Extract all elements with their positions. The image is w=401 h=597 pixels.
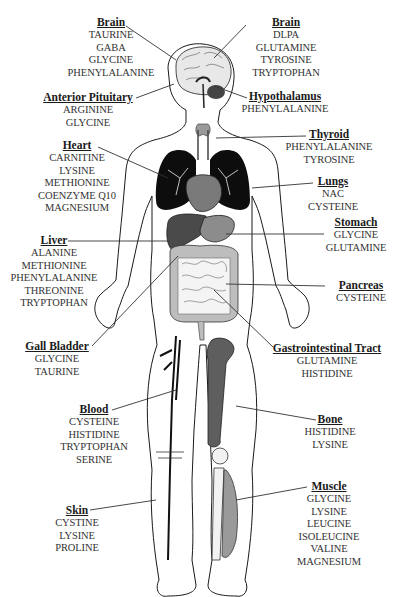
nutrient-item: METHIONINE	[11, 260, 98, 273]
nutrient-item: MAGNESIUM	[297, 556, 361, 569]
nutrient-item: DLPA	[252, 29, 320, 42]
nutrient-item: GLUTAMINE	[273, 355, 381, 368]
brain-illustration	[176, 47, 231, 108]
nutrient-item: MAGNESIUM	[38, 202, 116, 215]
organ-title: Brain	[68, 16, 155, 29]
nutrient-item: GLUTAMINE	[252, 42, 320, 55]
nutrient-item: LYSINE	[55, 530, 99, 543]
nutrient-item: TYROSINE	[252, 54, 320, 67]
organ-title: Gall Bladder	[25, 340, 89, 353]
nutrient-item: GLYCINE	[43, 117, 133, 130]
label-brain-left: Brain TAURINE GABA GLYCINE PHENYLALANINE	[68, 16, 155, 79]
organ-title: Anterior Pituitary	[43, 91, 133, 104]
nutrient-item: TRYPTOPHAN	[60, 441, 128, 454]
organ-title: Gastrointestinal Tract	[273, 342, 381, 355]
nutrient-item: CYSTEINE	[336, 292, 386, 305]
nutrient-item: GLYCINE	[297, 493, 361, 506]
stomach-illustration	[200, 215, 234, 242]
label-bone: Bone HISTIDINE LYSINE	[304, 413, 355, 451]
nutrient-item: THREONINE	[11, 285, 98, 298]
nutrient-item: PHENYLALANINE	[242, 103, 329, 116]
organ-title: Lungs	[308, 175, 358, 188]
nutrient-item: TAURINE	[68, 29, 155, 42]
nutrient-item: SERINE	[60, 454, 128, 467]
nutrient-item: CYSTEINE	[308, 201, 358, 214]
organ-title: Thyroid	[286, 128, 373, 141]
nutrient-item: ARGININE	[43, 104, 133, 117]
nutrient-item: PROLINE	[55, 542, 99, 555]
label-gall-bladder: Gall Bladder GLYCINE TAURINE	[25, 340, 89, 378]
label-pancreas: Pancreas CYSTEINE	[336, 279, 386, 305]
nutrient-item: LYSINE	[297, 506, 361, 519]
label-lungs: Lungs NAC CYSTEINE	[308, 175, 358, 213]
label-liver: Liver ALANINE METHIONINE PHENYLALANINE T…	[11, 234, 98, 310]
organ-title: Bone	[304, 413, 355, 426]
organ-title: Brain	[252, 16, 320, 29]
organ-title: Hypothalamus	[242, 90, 329, 103]
nutrient-item: GABA	[68, 42, 155, 55]
nutrient-item: GLUTAMINE	[326, 242, 387, 255]
organ-title: Skin	[55, 504, 99, 517]
nutrient-item: GLYCINE	[326, 229, 387, 242]
label-anterior-pituitary: Anterior Pituitary ARGININE GLYCINE	[43, 91, 133, 129]
nutrient-item: LYSINE	[304, 439, 355, 452]
label-blood: Blood CYSTEINE HISTIDINE TRYPTOPHAN SERI…	[60, 403, 128, 466]
nutrient-item: GLYCINE	[68, 54, 155, 67]
organ-title: Blood	[60, 403, 128, 416]
femur-bone-illustration	[207, 338, 234, 447]
label-thyroid: Thyroid PHENYLALANINE TYROSINE	[286, 128, 373, 166]
nutrient-item: TRYPTOPHAN	[252, 67, 320, 80]
nutrient-item: TRYPTOPHAN	[11, 297, 98, 310]
nutrient-item: PHENYLALANINE	[11, 272, 98, 285]
label-brain-right: Brain DLPA GLUTAMINE TYROSINE TRYPTOPHAN	[252, 16, 320, 79]
nutrient-item: NAC	[308, 188, 358, 201]
small-intestine-illustration	[178, 258, 230, 314]
organ-title: Heart	[38, 139, 116, 152]
nutrient-item: PHENYLALANINE	[68, 67, 155, 80]
blood-vessels-illustration	[160, 336, 180, 560]
nutrient-item: LEUCINE	[297, 518, 361, 531]
label-gastrointestinal-tract: Gastrointestinal Tract GLUTAMINE HISTIDI…	[273, 342, 381, 380]
label-hypothalamus: Hypothalamus PHENYLALANINE	[242, 90, 329, 116]
nutrient-item: HISTIDINE	[273, 368, 381, 381]
heart-illustration	[186, 175, 222, 212]
label-heart: Heart CARNITINE LYSINE METHIONINE COENZY…	[38, 139, 116, 215]
nutrient-item: PHENYLALANINE	[286, 141, 373, 154]
nutrient-item: METHIONINE	[38, 177, 116, 190]
label-stomach: Stomach GLYCINE GLUTAMINE	[326, 216, 387, 254]
nutrient-item: GLYCINE	[25, 353, 89, 366]
nutrient-item: COENZYME Q10	[38, 190, 116, 203]
nutrient-item: TAURINE	[25, 366, 89, 379]
organ-title: Muscle	[297, 480, 361, 493]
nutrient-item: CYSTINE	[55, 517, 99, 530]
nutrient-item: VALINE	[297, 543, 361, 556]
nutrient-item: ISOLEUCINE	[297, 531, 361, 544]
nutrient-item: ALANINE	[11, 247, 98, 260]
organ-title: Liver	[11, 234, 98, 247]
nutrient-item: TYROSINE	[286, 154, 373, 167]
label-muscle: Muscle GLYCINE LYSINE LEUCINE ISOLEUCINE…	[297, 480, 361, 569]
nutrient-item: CARNITINE	[38, 152, 116, 165]
calf-muscle-illustration	[222, 470, 238, 557]
nutrient-item: HISTIDINE	[304, 426, 355, 439]
nutrient-item: HISTIDINE	[60, 429, 128, 442]
label-skin: Skin CYSTINE LYSINE PROLINE	[55, 504, 99, 555]
nutrient-item: LYSINE	[38, 165, 116, 178]
nutrient-item: CYSTEINE	[60, 416, 128, 429]
organ-title: Pancreas	[336, 279, 386, 292]
organ-title: Stomach	[326, 216, 387, 229]
